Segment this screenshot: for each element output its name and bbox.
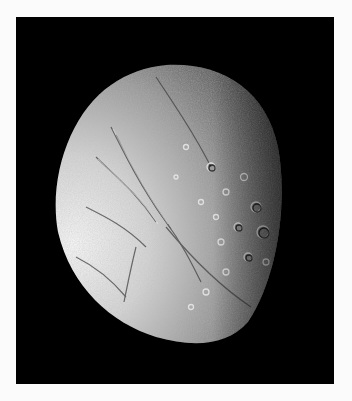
moon-disc	[16, 17, 334, 384]
moon-photo	[16, 17, 334, 384]
photo-frame	[16, 17, 334, 384]
